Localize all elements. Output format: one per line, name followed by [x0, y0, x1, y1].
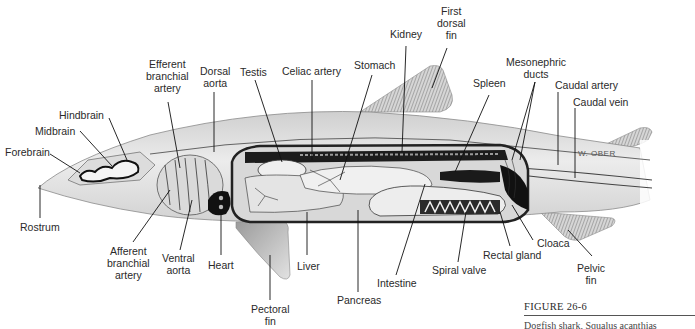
label-spiral-valve: Spiral valve — [432, 264, 486, 276]
label-intestine: Intestine — [377, 277, 417, 289]
label-first-dorsal-fin: First dorsal fin — [437, 5, 466, 41]
label-dorsal-aorta: Dorsal aorta — [200, 65, 230, 89]
label-afferent-branchial-artery: Afferent branchial artery — [107, 245, 150, 281]
label-line: artery — [107, 269, 150, 281]
label-pectoral-fin: Pectoral fin — [251, 303, 290, 327]
label-pancreas: Pancreas — [337, 294, 381, 306]
label-ventral-aorta: Ventral aorta — [162, 252, 195, 276]
label-heart: Heart — [208, 259, 234, 271]
label-celiac-artery: Celiac artery — [282, 65, 341, 77]
label-line: fin — [437, 29, 466, 41]
label-line: Dorsal — [200, 65, 230, 77]
label-line: First — [437, 5, 466, 17]
label-line: Efferent — [146, 58, 189, 70]
label-pelvic-fin: Pelvic fin — [577, 262, 605, 286]
label-line: artery — [146, 82, 189, 94]
label-efferent-branchial-artery: Efferent branchial artery — [146, 58, 189, 94]
first-dorsal-fin — [360, 66, 453, 113]
spleen — [440, 170, 500, 183]
label-line: fin — [251, 315, 290, 327]
label-line: Pectoral — [251, 303, 290, 315]
label-line: Mesonephric — [506, 56, 566, 68]
figure-number: FIGURE 26-6 — [524, 301, 587, 312]
label-line: aorta — [200, 77, 230, 89]
caption-divider — [524, 315, 695, 316]
label-line: Pelvic — [577, 262, 605, 274]
label-testis: Testis — [240, 66, 267, 78]
artist-signature: W. OBER — [578, 149, 616, 158]
label-line: Ventral — [162, 252, 195, 264]
pectoral-fin — [236, 220, 290, 279]
label-kidney: Kidney — [390, 28, 422, 40]
label-caudal-artery: Caudal artery — [555, 79, 618, 91]
label-rostrum: Rostrum — [20, 221, 60, 233]
label-cloaca: Cloaca — [537, 237, 570, 249]
label-liver: Liver — [297, 260, 320, 272]
label-caudal-vein: Caudal vein — [573, 96, 628, 108]
label-hindbrain: Hindbrain — [59, 109, 104, 121]
label-line: Afferent — [107, 245, 150, 257]
label-stomach: Stomach — [354, 59, 395, 71]
label-line: fin — [577, 274, 605, 286]
label-rectal-gland: Rectal gland — [483, 249, 541, 261]
label-mesonephric-ducts: Mesonephric ducts — [506, 56, 566, 80]
label-line: aorta — [162, 264, 195, 276]
label-line: branchial — [146, 70, 189, 82]
label-midbrain: Midbrain — [35, 125, 75, 137]
label-line: dorsal — [437, 17, 466, 29]
label-spleen: Spleen — [473, 77, 506, 89]
label-forebrain: Forebrain — [5, 146, 50, 158]
label-line: branchial — [107, 257, 150, 269]
figure-caption: Dogfish shark, Squalus acanthias — [524, 320, 657, 329]
